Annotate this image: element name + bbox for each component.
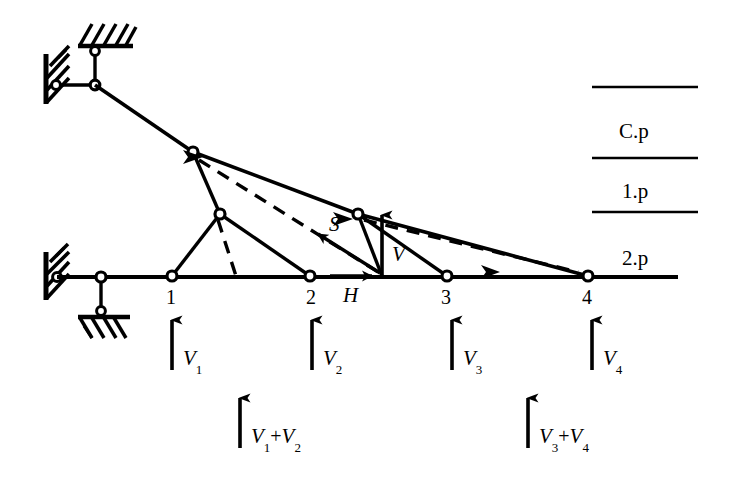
figure-canvas: 1 2 3 4 S V H V1 V2 V3 V4 V1+V2 V3+V4 C.… <box>0 0 733 477</box>
top-ceiling-support <box>78 24 136 46</box>
sum-left-term-a-subscript: 1 <box>264 440 271 455</box>
web-members <box>172 152 447 276</box>
sum-right-term-a-subscript: 3 <box>552 440 559 455</box>
reaction-label-v4-subscript: 4 <box>616 362 623 377</box>
reaction-label-v1-subscript: 1 <box>196 362 203 377</box>
reaction-label-v1: V1 <box>183 348 202 372</box>
sum-left-term-b: V <box>282 424 295 448</box>
plane-label-cp: C.p <box>619 121 649 142</box>
node-label-2: 2 <box>306 287 316 307</box>
force-label-H: H <box>343 285 358 306</box>
sum-left-operator: + <box>270 425 281 447</box>
bottom-pedestal-support <box>78 277 130 338</box>
lower-left-wall-support <box>46 244 69 300</box>
reaction-label-v3-symbol: V <box>463 346 476 370</box>
force-label-S: S <box>329 214 340 235</box>
sum-right-term-a: V <box>539 424 552 448</box>
reaction-label-v2-symbol: V <box>323 346 336 370</box>
section-force-arrows <box>183 150 500 279</box>
sum-left-term-b-subscript: 2 <box>294 440 301 455</box>
plane-label-2p: 2.p <box>622 248 648 269</box>
sum-right-term-b: V <box>570 424 583 448</box>
sum-right-operator: + <box>558 425 569 447</box>
reaction-label-v3-subscript: 3 <box>476 362 483 377</box>
force-arrow-S <box>318 234 380 273</box>
reaction-label-v1-symbol: V <box>183 346 196 370</box>
node-label-3: 3 <box>441 287 451 307</box>
reaction-label-v2-subscript: 2 <box>336 362 343 377</box>
reaction-label-v3: V3 <box>463 348 482 372</box>
reaction-label-v3-plus-v4: V3+V4 <box>539 426 589 450</box>
reaction-label-v4: V4 <box>603 348 622 372</box>
sum-left-term-a: V <box>251 424 264 448</box>
reaction-label-v1-plus-v2: V1+V2 <box>251 426 301 450</box>
node-label-1: 1 <box>166 287 176 307</box>
plane-label-1p: 1.p <box>622 181 648 202</box>
reaction-arrows-row-1 <box>172 320 592 370</box>
sum-right-term-b-subscript: 4 <box>582 440 589 455</box>
force-label-V: V <box>392 244 405 265</box>
node-label-4: 4 <box>582 287 592 307</box>
reaction-label-v4-symbol: V <box>603 346 616 370</box>
truss-diagram-svg <box>0 0 733 477</box>
reaction-label-v2: V2 <box>323 348 342 372</box>
